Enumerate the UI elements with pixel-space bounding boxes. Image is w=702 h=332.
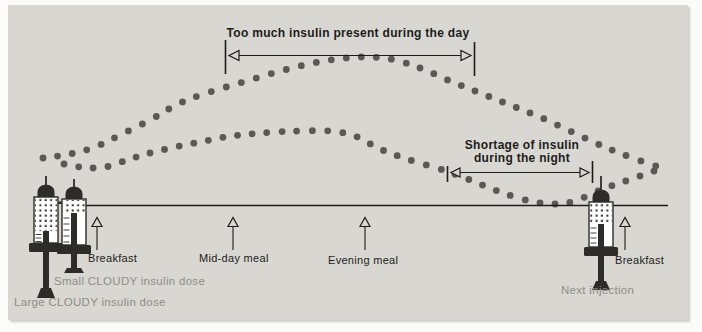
meal-label-evening: Evening meal [328, 254, 398, 266]
small-dose-label: Small CLOUDY insulin dose [54, 275, 205, 287]
day-annotation-label: Too much insulin present during the day [218, 26, 478, 40]
insulin-curve-dot [309, 127, 316, 134]
meal-arrow-midday [228, 218, 238, 251]
insulin-curve-dot [69, 150, 76, 157]
up-arrow-icon [92, 218, 102, 227]
insulin-curve-dot [638, 158, 645, 165]
insulin-curve-dot [205, 137, 212, 144]
up-arrow-icon [620, 218, 630, 227]
insulin-curve-dot [223, 84, 230, 91]
insulin-curve-dot [485, 93, 492, 100]
insulin-curve-dot [513, 104, 520, 111]
day-span-bracket [226, 40, 475, 76]
insulin-curve-dot [193, 93, 200, 100]
insulin-curve-dot [298, 62, 305, 69]
insulin-curve-dot [54, 153, 61, 160]
insulin-curve-dot [507, 192, 514, 199]
night-annotation-label: Shortage of insulin during the night [446, 139, 598, 164]
insulin-curve-dot [581, 194, 588, 201]
insulin-curve-dot [313, 59, 320, 66]
insulin-curve-dot [651, 168, 658, 175]
insulin-curve-dot [161, 146, 168, 153]
left-arrow-icon [229, 51, 239, 61]
insulin-curve-dot [324, 127, 331, 134]
insulin-curve-dot [609, 182, 616, 189]
insulin-curve-dot [623, 152, 630, 159]
insulin-curve-dot [472, 88, 479, 95]
meal-arrow-evening [360, 218, 370, 251]
insulin-curve-dot [527, 110, 534, 117]
insulin-curve-dot [465, 176, 472, 183]
syringe-next-injection-icon [584, 176, 618, 290]
insulin-curve-dot [208, 88, 215, 95]
meal-label-midday: Mid-day meal [199, 252, 269, 264]
up-arrow-icon [360, 218, 370, 227]
insulin-curve-dot [238, 79, 245, 86]
insulin-curve-dot [75, 163, 82, 170]
insulin-curve-dot [367, 141, 374, 148]
insulin-curve-dot [499, 99, 506, 106]
insulin-curve-dot [190, 140, 197, 147]
insulin-curve-dot [61, 161, 68, 168]
insulin-curve-dot [105, 163, 112, 170]
insulin-curve-dot [554, 122, 561, 129]
insulin-curve-dot [388, 56, 395, 63]
right-arrow-icon [461, 51, 471, 61]
insulin-curve-dot [179, 99, 186, 106]
insulin-curve-dot [293, 128, 300, 135]
insulin-curve-dot [522, 197, 529, 204]
insulin-curve-dot [125, 127, 132, 134]
insulin-curve-dot [253, 75, 260, 82]
insulin-curve-dot [139, 121, 146, 128]
insulin-curve-dot [90, 165, 97, 172]
large-dose-label: Large CLOUDY insulin dose [14, 296, 166, 308]
insulin-curve-dot [417, 65, 424, 72]
insulin-curve-dot [458, 82, 465, 89]
insulin-curves [40, 54, 660, 208]
insulin-curve-dot [493, 187, 500, 194]
insulin-curve-dot [153, 113, 160, 120]
insulin-curve-dot [438, 166, 445, 173]
meal-label-breakfast-2: Breakfast [615, 254, 664, 266]
insulin-curve-dot [354, 133, 361, 140]
insulin-curve-dot [540, 115, 547, 122]
insulin-curve-dot [176, 143, 183, 150]
insulin-curve-dot [98, 141, 105, 148]
insulin-curve-dot [394, 152, 401, 159]
insulin-curve-dot [423, 162, 430, 169]
dose-separator-dash [58, 201, 62, 204]
insulin-curve-dot [408, 157, 415, 164]
next-injection-label: Next injection [561, 284, 634, 296]
insulin-curve-dot [165, 106, 172, 113]
diagram-page: Too much insulin present during the day … [0, 0, 702, 332]
insulin-curve-dot [339, 129, 346, 136]
syringe-small-dose-icon [57, 179, 91, 273]
night-annotation-line1: Shortage of insulin [446, 139, 598, 152]
insulin-curve-dot [133, 154, 140, 161]
meal-label-breakfast-1: Breakfast [88, 252, 137, 264]
up-arrow-icon [228, 218, 238, 227]
insulin-curve-dot [234, 132, 241, 139]
insulin-curve-dot [111, 134, 118, 141]
insulin-curve-dot [637, 173, 644, 180]
insulin-curve-dot [283, 66, 290, 73]
insulin-curve-dot [249, 130, 256, 137]
meal-arrow-breakfast-1 [92, 218, 102, 251]
insulin-curve-dot [403, 60, 410, 67]
insulin-curve-dot [279, 128, 286, 135]
insulin-curve-dot [328, 56, 335, 63]
insulin-curve-dot [479, 182, 486, 189]
insulin-curve-dot [568, 128, 575, 135]
insulin-curve-dot [622, 178, 629, 185]
insulin-curve-dot [268, 70, 275, 77]
insulin-curve-dot [444, 77, 451, 84]
insulin-curve-dot [552, 201, 559, 208]
insulin-curve-dot [609, 147, 616, 154]
insulin-curve-dot [83, 146, 90, 153]
insulin-curve-dot [40, 155, 47, 162]
night-annotation-line2: during the night [446, 152, 598, 165]
insulin-curve-dot [358, 54, 365, 61]
insulin-curve-dot [119, 158, 126, 165]
insulin-curve-dot [380, 147, 387, 154]
insulin-curve-dot [263, 129, 270, 136]
